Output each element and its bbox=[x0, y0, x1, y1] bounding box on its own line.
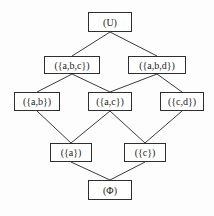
node-set-abc: ({a,b,c}) bbox=[44, 56, 100, 74]
edge-abd-ac bbox=[110, 74, 157, 92]
edge-ab-a bbox=[37, 111, 71, 143]
node-empty-set: (Φ) bbox=[88, 180, 132, 200]
edge-abc-ac bbox=[72, 74, 110, 92]
node-set-abd: ({a,b,d}) bbox=[128, 56, 186, 74]
edge-c-phi bbox=[110, 162, 145, 180]
node-set-a: ({a}) bbox=[50, 143, 92, 162]
node-set-c: ({c}) bbox=[124, 143, 166, 162]
edge-ac-a bbox=[71, 111, 110, 143]
edge-ac-c bbox=[110, 111, 145, 143]
edge-cd-c bbox=[145, 111, 182, 143]
edge-abc-ab bbox=[37, 74, 72, 92]
node-set-cd: ({c,d}) bbox=[160, 92, 204, 111]
edge-U-abc bbox=[72, 32, 110, 56]
edge-abd-cd bbox=[157, 74, 182, 92]
edge-U-abd bbox=[110, 32, 157, 56]
node-universe: (U) bbox=[88, 12, 132, 32]
node-set-ac: ({a,c}) bbox=[88, 92, 132, 111]
edge-a-phi bbox=[71, 162, 110, 180]
node-set-ab: ({a,b}) bbox=[14, 92, 60, 111]
lattice-diagram: (U) ({a,b,c}) ({a,b,d}) ({a,b}) ({a,c}) … bbox=[0, 0, 214, 216]
